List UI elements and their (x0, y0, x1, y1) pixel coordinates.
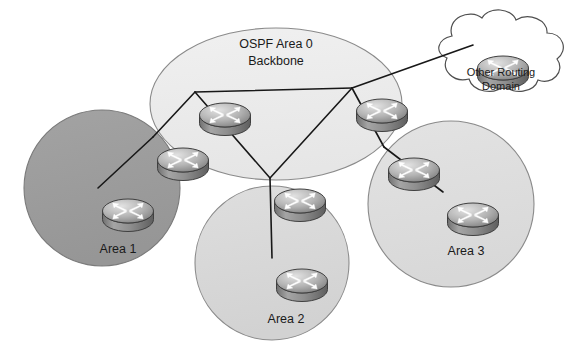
area-3-shape (368, 121, 534, 287)
backbone-title-line1: OSPF Area 0 (239, 37, 313, 51)
internal-router-area-1 (103, 199, 154, 232)
backbone-title-line2: Backbone (248, 54, 304, 68)
area-1-label: Area 1 (100, 242, 137, 256)
internal-router-area-3 (448, 203, 499, 236)
abr-router-area-3 (389, 158, 440, 191)
area-2-label: Area 2 (268, 312, 305, 326)
internal-router-area-2 (277, 269, 328, 302)
backbone-router-bottom (275, 189, 326, 222)
cloud-label-line1: Other Routing (467, 66, 535, 78)
cloud-label-line2: Domain (482, 80, 520, 92)
network-canvas: OSPF Area 0 Backbone Other Routing Domai… (0, 0, 577, 350)
abr-router-area-1 (158, 148, 209, 181)
backbone-router-top-left (200, 103, 251, 136)
backbone-router-top-right (357, 99, 408, 132)
ospf-network-diagram: OSPF Area 0 Backbone Other Routing Domai… (0, 0, 577, 350)
area-3-label: Area 3 (448, 244, 485, 258)
